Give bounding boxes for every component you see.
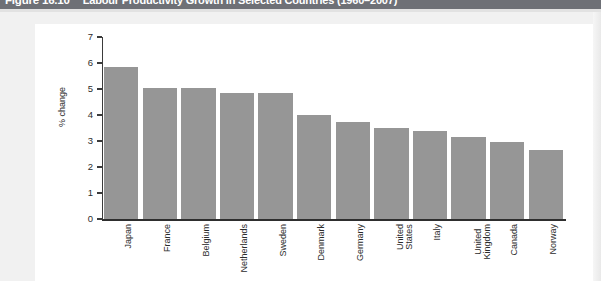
bar (104, 67, 138, 219)
bar (529, 150, 563, 219)
x-axis-label-line: Belgium (202, 224, 211, 257)
chart-panel: % change 01234567 JapanFranceBelgiumNeth… (35, 24, 593, 281)
x-axis-label: Denmark (317, 224, 326, 261)
x-axis-label: UnitedKingdom (474, 224, 492, 260)
x-axis-label-line: Germany (356, 224, 365, 261)
y-axis-tick-label: 0 (79, 214, 93, 224)
x-axis-label-line: Norway (549, 224, 558, 255)
x-axis-label: UnitedStates (396, 224, 414, 250)
y-axis-tick-label: 4 (79, 110, 93, 120)
x-axis-label: France (163, 224, 172, 252)
bar (258, 93, 292, 219)
x-axis-label: Japan (124, 224, 133, 249)
bar (143, 88, 177, 219)
x-axis-label: Netherlands (240, 224, 249, 273)
title-underline (0, 9, 601, 12)
figure-title-bar: Figure 16.10 Labour Productivity Growth … (0, 0, 601, 9)
x-axis-label-line: Canada (510, 224, 519, 256)
bar (336, 122, 370, 219)
y-axis-tick-label: 6 (79, 58, 93, 68)
figure-number: Figure 16.10 (5, 0, 70, 6)
x-axis-label-line: Kingdom (483, 224, 492, 260)
x-axis-label: Germany (356, 224, 365, 261)
bar (413, 131, 447, 219)
x-axis-label: Belgium (202, 224, 211, 257)
page-edge-shadow (593, 12, 601, 281)
x-axis-label-line: States (406, 224, 415, 250)
y-axis-tick-label: 5 (79, 84, 93, 94)
x-axis-line (102, 219, 566, 221)
x-axis-label-line: Japan (124, 224, 133, 249)
x-axis-label: Norway (549, 224, 558, 255)
bar (490, 142, 524, 219)
plot-area (102, 37, 565, 219)
y-axis-tick-label: 7 (79, 32, 93, 42)
y-axis-tick-label: 1 (79, 188, 93, 198)
bar (220, 93, 254, 219)
bar (181, 88, 215, 219)
y-axis-title: % change (57, 72, 67, 142)
bar (297, 115, 331, 219)
x-axis-label-line: Denmark (317, 224, 326, 261)
x-axis-label: Italy (433, 224, 442, 241)
y-axis-tick-label: 2 (79, 162, 93, 172)
bar (451, 137, 485, 219)
x-axis-label-line: Netherlands (240, 224, 249, 273)
x-axis-label-line: France (163, 224, 172, 252)
x-axis-label-line: Sweden (279, 224, 288, 257)
y-axis-tick-label: 3 (79, 136, 93, 146)
x-axis-label-line: Italy (433, 224, 442, 241)
figure-caption: Labour Productivity Growth in Selected C… (83, 0, 397, 6)
figure-container: Figure 16.10 Labour Productivity Growth … (0, 0, 601, 281)
x-axis-label: Sweden (279, 224, 288, 257)
bar (374, 128, 408, 219)
x-axis-label: Canada (510, 224, 519, 256)
